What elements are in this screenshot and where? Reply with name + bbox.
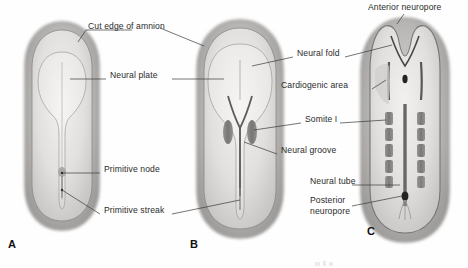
label-neural-groove: Neural groove: [281, 145, 336, 156]
dark-marker-c: [402, 75, 407, 83]
label-posterior-neuropore-line1: Posterior: [310, 195, 345, 206]
somite-column-right-c: [417, 112, 425, 188]
panel-letter-c: C: [367, 225, 375, 237]
panel-c-embryo: [361, 18, 449, 242]
panel-letter-a: A: [8, 238, 16, 250]
label-primitive-streak: Primitive streak: [104, 205, 164, 216]
leader-dot-node-a: [61, 172, 63, 174]
label-cut-edge-of-amnion: Cut edge of amnion: [88, 21, 165, 32]
somite-left-b: [223, 120, 233, 144]
label-anterior-neuropore: Anterior neuropore: [368, 2, 441, 13]
label-somite-i: Somite I: [305, 114, 337, 125]
label-neural-plate: Neural plate: [110, 70, 158, 81]
label-neural-fold: Neural fold: [297, 48, 340, 59]
label-posterior-neuropore-line2: neuropore: [310, 206, 350, 217]
somite-right-b: [247, 120, 257, 144]
leader-dot-streak-a: [61, 189, 63, 191]
label-neural-tube: Neural tube: [310, 176, 356, 187]
label-cardiogenic-area: Cardiogenic area: [281, 80, 348, 91]
panel-a-embryo: [25, 22, 99, 230]
somite-column-left-c: [385, 112, 393, 188]
panel-b-embryo: [197, 20, 283, 238]
panel-letter-b: B: [190, 238, 198, 250]
posterior-neuropore-c: [402, 191, 409, 200]
label-primitive-node: Primitive node: [104, 164, 160, 175]
embryology-figure: Cut edge of amnion Neural plate Primitiv…: [0, 0, 468, 268]
embryo-illustration: [0, 0, 468, 268]
neural-fold-right-c: [421, 62, 422, 100]
